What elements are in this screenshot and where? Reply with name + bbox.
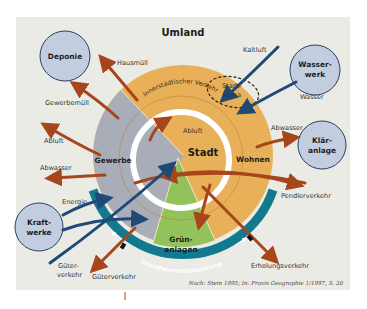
label-pendlerverkehr: Pendlerverkehr — [281, 192, 331, 200]
label-stadtklima-2: klima — [223, 91, 241, 99]
label-gewerbe: Gewerbe — [95, 156, 132, 165]
label-klaeranlage-1: Klär- — [312, 136, 332, 145]
label-klaeranlage-2: anlage — [308, 146, 336, 155]
label-erholungsverkehr: Erholungsverkehr — [251, 262, 309, 270]
city-ecosystem-diagram: Umland Deponie Wasser- werk Klär- anlage… — [0, 0, 367, 309]
label-gruenanlagen-1: Grün- — [169, 235, 192, 244]
label-kraftwerke-1: Kraft- — [27, 218, 51, 227]
source-citation: Nach: Stein 1995; In: Praxis Geographie … — [188, 280, 344, 287]
label-kraftwerke-2: werke — [26, 228, 51, 237]
label-deponie: Deponie — [48, 52, 82, 61]
label-wasserwerk-1: Wasser- — [298, 60, 331, 69]
label-gueterverkehr: Güterverkehr — [92, 273, 136, 281]
label-abluft-inner: Abluft — [183, 127, 203, 135]
label-gruenanlagen-2: anlagen — [164, 245, 197, 254]
label-abwasser-left: Abwasser — [40, 164, 72, 172]
label-gueterverkehr-left-1: Güter- — [58, 262, 79, 270]
label-stadtklima-1: Stadt- — [222, 82, 243, 90]
title-umland: Umland — [162, 27, 205, 38]
label-wasser: Wasser — [300, 93, 324, 101]
label-wohnen: Wohnen — [236, 155, 270, 164]
label-stadt: Stadt — [188, 147, 219, 158]
facility-klaeranlage — [298, 121, 346, 169]
label-energie: Energie — [62, 198, 87, 206]
label-abluft: Abluft — [44, 137, 64, 145]
label-gueterverkehr-left-2: verkehr — [57, 271, 82, 279]
label-kaltluft: Kaltluft — [243, 46, 267, 54]
label-abwasser-right: Abwasser — [271, 124, 303, 132]
facility-kraftwerke — [15, 203, 63, 251]
label-gewerbemuell: Gewerbemüll — [45, 99, 89, 107]
label-wasserwerk-2: werk — [305, 70, 326, 79]
label-hausmuell: Hausmüll — [117, 59, 148, 67]
